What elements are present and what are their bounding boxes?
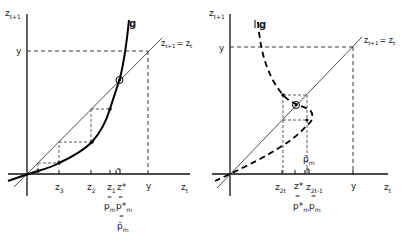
right-diagonal-label: zt+1= zt — [364, 36, 396, 46]
left-ticks — [59, 169, 120, 174]
right-x-axis-label: zt — [384, 182, 392, 194]
left-tick-y: y — [146, 181, 152, 191]
left-dot — [36, 169, 39, 172]
left-annot-pm: pm — [104, 201, 116, 213]
right-diagonal-line — [217, 37, 362, 188]
left-curve-label: g — [129, 18, 136, 29]
left-eq-sign: = — [118, 193, 123, 200]
right-tick-zstar: z* — [294, 181, 304, 191]
right-tick-y: y — [351, 181, 357, 191]
right-curve-label: g — [259, 19, 266, 30]
right-panel: zt+1 y g zt+1= zt p̄m z2t z* z2t-1 y zt … — [209, 8, 396, 213]
right-eq-sign: = — [295, 192, 300, 199]
right-annot-pm-star: p*m — [293, 201, 309, 213]
left-annot-pbar: p̄m — [117, 221, 129, 233]
left-diagonal-line — [14, 38, 162, 187]
left-panel: zt+1 y g zt+1= zt z3 z2 z1 z* y zt = pm … — [5, 8, 193, 233]
left-fixed-point-dot — [118, 79, 121, 82]
right-ticks — [282, 169, 353, 174]
left-dot — [108, 107, 111, 110]
left-y-axis-label: zt+1 — [5, 8, 21, 20]
right-pbar-label: p̄m — [303, 154, 315, 166]
left-tick-z3: z3 — [55, 182, 64, 194]
right-annot-pm: pm — [309, 201, 321, 213]
right-dot — [306, 119, 309, 122]
right-dot — [281, 93, 284, 96]
right-y-level-label: y — [219, 43, 225, 53]
left-tick-zstar: z* — [117, 182, 127, 192]
right-eq-sign: = — [311, 192, 316, 199]
right-y-axis-label: zt+1 — [209, 8, 225, 20]
right-fixed-point-dot — [295, 104, 298, 107]
left-x-axis-label: zt — [181, 182, 189, 194]
left-diagonal-label: zt+1= zt — [161, 39, 193, 49]
left-tick-z2: z2 — [87, 182, 96, 194]
left-dot — [90, 140, 93, 143]
left-curve-g — [8, 20, 129, 181]
left-eq-sign: = — [107, 193, 112, 200]
left-y-level-label: y — [16, 46, 22, 56]
left-dot — [57, 161, 60, 164]
left-cobweb — [38, 109, 110, 171]
right-tick-z2t: z2t — [275, 182, 287, 194]
left-eq-sign: = — [119, 212, 124, 219]
diagram-canvas: zt+1 y g zt+1= zt z3 z2 z1 z* y zt = pm … — [0, 0, 401, 239]
